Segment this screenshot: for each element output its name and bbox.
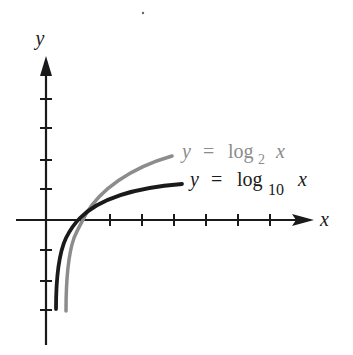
log2-curve [66, 156, 172, 311]
log2-label: y = log 2 x [180, 140, 285, 167]
log2-label-eq: = [203, 140, 214, 162]
log10-label-eq: = [211, 168, 222, 190]
x-axis-label: x [319, 208, 329, 230]
y-axis [40, 56, 52, 345]
speck [142, 12, 144, 14]
log10-curve [56, 184, 182, 309]
log10-label-fn: log [237, 168, 263, 191]
log10-label-base: 10 [268, 181, 284, 198]
log-functions-chart: y x y = log 2 x y = log 10 x [0, 0, 353, 355]
log2-label-y: y [180, 140, 191, 163]
log2-label-var: x [275, 140, 285, 162]
log10-label-var: x [297, 168, 307, 190]
x-axis [16, 214, 314, 226]
log10-label-y: y [188, 168, 199, 191]
log10-label: y = log 10 x [188, 168, 307, 198]
y-axis-label: y [34, 27, 45, 50]
log2-label-fn: log [228, 140, 254, 163]
y-axis-arrow-icon [40, 56, 52, 76]
log2-label-base: 2 [258, 152, 265, 167]
